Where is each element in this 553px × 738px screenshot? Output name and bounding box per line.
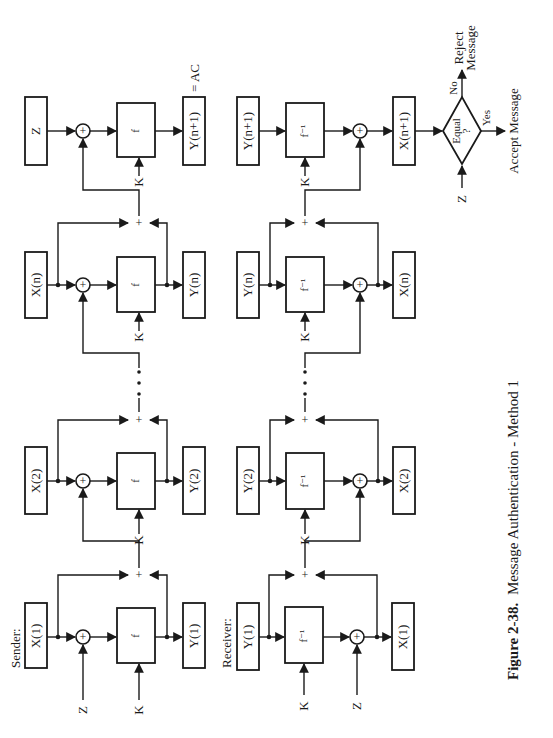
junction-symbol: +: [136, 568, 143, 582]
figure-number: Figure 2-38.: [505, 603, 521, 680]
svg-text:Y(n+1): Y(n+1): [240, 112, 255, 150]
svg-text:Y(2): Y(2): [240, 469, 255, 494]
key-label: K: [131, 705, 146, 715]
svg-text:Y(n): Y(n): [240, 273, 255, 298]
ac-note: = AC: [187, 64, 202, 92]
svg-text:+: +: [136, 413, 143, 427]
sender-stage-n-plus-1: Z + f K Y(n+1) = AC: [25, 64, 205, 187]
svg-text:K: K: [131, 332, 146, 342]
svg-text:f: f: [129, 129, 141, 133]
svg-text:X(2): X(2): [396, 469, 411, 494]
svg-text:+: +: [80, 474, 87, 488]
accept-message-label: Accept Message: [506, 88, 521, 174]
svg-text:+: +: [80, 278, 87, 292]
svg-text:+: +: [357, 474, 364, 488]
figure-caption: Figure 2-38. Message Authentication - Me…: [505, 380, 521, 680]
yes-label: Yes: [480, 110, 492, 126]
ellipsis-dot: [137, 392, 141, 396]
svg-text:f⁻¹: f⁻¹: [297, 630, 309, 643]
svg-text:K: K: [296, 701, 311, 711]
sender-y2-label: Y(2): [186, 469, 201, 494]
sender-z-label: Z: [28, 127, 43, 135]
svg-text:Y(1): Y(1): [240, 625, 255, 650]
svg-text:X(1): X(1): [395, 625, 410, 650]
svg-text:X(n): X(n): [396, 273, 411, 298]
svg-text:+: +: [80, 124, 87, 138]
sender-label: Sender:: [8, 628, 23, 668]
sender-xn-label: X(n): [28, 273, 43, 298]
svg-text:+: +: [302, 568, 309, 582]
svg-text:Figure 2-38. Message Aut: Figure 2-38. Message Authentication - Me…: [505, 380, 521, 680]
svg-text:+: +: [354, 630, 361, 644]
sender-chain: Sender: X(1) + Z f K Y(1) +: [8, 64, 205, 715]
svg-text:+: +: [136, 216, 143, 230]
svg-text:f: f: [129, 283, 141, 287]
receiver-stage-n: Y(n) f⁻¹ K + X(n) +: [237, 139, 415, 342]
svg-text:K: K: [131, 535, 146, 545]
svg-text:X(n+1): X(n+1): [396, 112, 411, 150]
sender-y1-label: Y(1): [186, 624, 201, 649]
decision-z-label: Z: [454, 195, 469, 203]
svg-text:?: ?: [460, 128, 472, 133]
svg-text:K: K: [131, 177, 146, 187]
svg-text:K: K: [297, 535, 312, 545]
sender-x2-label: X(2): [28, 469, 43, 494]
svg-text:K: K: [297, 177, 312, 187]
receiver-label: Receiver:: [219, 618, 234, 668]
sender-x1-label: X(1): [28, 624, 43, 649]
receiver-chain: Receiver: Y(1) f⁻¹ K + Z X(1) +: [219, 25, 521, 711]
sender-yn1-label: Y(n+1): [186, 112, 201, 150]
svg-text:Z: Z: [349, 702, 364, 710]
figure-title: Message Authentication - Method 1: [505, 380, 521, 595]
svg-text:f⁻¹: f⁻¹: [298, 279, 310, 292]
fn-label: f: [129, 634, 141, 638]
sender-stage-1: X(1) + Z f K Y(1) +: [25, 489, 205, 715]
svg-text:+: +: [357, 124, 364, 138]
receiver-stage-1: Y(1) f⁻¹ K + Z X(1) +: [237, 489, 414, 711]
svg-text:+: +: [302, 413, 309, 427]
svg-text:+: +: [357, 278, 364, 292]
sender-yn-label: Y(n): [186, 273, 201, 298]
svg-text:f⁻¹: f⁻¹: [298, 125, 310, 138]
svg-text:K: K: [297, 332, 312, 342]
sender-stage-2: X(2) + f K Y(2) +: [25, 293, 205, 545]
receiver-stage-n-plus-1: Y(n+1) f⁻¹ K + X(n+1): [237, 97, 442, 187]
svg-text:f⁻¹: f⁻¹: [298, 475, 310, 488]
receiver-stage-2: Y(2) f⁻¹ K + X(2) +: [237, 293, 415, 545]
reject-line2: Message: [463, 25, 478, 71]
xor-symbol: +: [80, 630, 87, 644]
diagram-canvas: Sender: X(1) + Z f K Y(1) +: [0, 0, 553, 738]
sender-z-input-label: Z: [75, 706, 90, 714]
svg-text:f: f: [129, 479, 141, 483]
decision-equal: Equal ? Z Yes Accept Message No Reject M…: [443, 25, 521, 203]
no-label: No: [447, 81, 459, 95]
svg-text:+: +: [302, 216, 309, 230]
sender-stage-n: X(n) + f K Y(n) +: [25, 139, 205, 342]
